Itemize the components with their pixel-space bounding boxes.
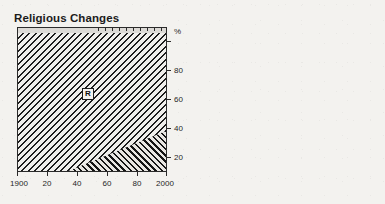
top-tick [98,28,99,31]
y-tick-left-3 [167,70,171,71]
annotation-marker-r-label: R [85,90,91,98]
x-tick-label-left-1: 20 [43,179,52,188]
y-tick-left-0 [167,157,171,158]
y-tick-label-left-0: 20 [174,153,183,162]
chart-title-religious-changes: Religious Changes [14,12,119,24]
top-tick [133,28,134,31]
top-tick [154,28,155,31]
x-tick-left-1 [47,172,48,176]
x-tick-left-2 [77,172,78,176]
x-tick-label-left-2: 40 [73,179,82,188]
top-tick [126,28,127,31]
annotation-marker-r: R [82,88,94,100]
chart-panel-evangelical-changes: Evangelical Changes 1950 60 70 80 90 200… [193,0,385,204]
y-tick-left-1 [167,128,171,129]
top-tick [112,28,113,31]
plot-area-religious-changes: R [17,27,167,172]
x-tick-left-5 [166,172,167,176]
chart-panel-religious-changes: Religious Changes R 1900 20 40 [0,0,193,204]
figure-canvas: Religious Changes R 1900 20 40 [0,0,385,204]
top-tick [119,28,120,31]
y-tick-label-left-3: 80 [174,66,183,75]
x-tick-left-3 [107,172,108,176]
y-axis-unit-left: % [174,27,181,36]
x-tick-left-0 [17,172,18,176]
y-tick-label-left-1: 40 [174,124,183,133]
x-tick-left-4 [137,172,138,176]
x-tick-label-left-3: 60 [103,179,112,188]
y-tick-left-2 [167,99,171,100]
x-tick-label-left-5: 2000 [156,179,174,188]
top-tick [161,28,162,31]
top-tick [147,28,148,31]
x-tick-label-left-0: 1900 [10,179,28,188]
top-tick [140,28,141,31]
top-tick [105,28,106,31]
y-tick-left-4 [167,41,171,42]
x-tick-label-left-4: 80 [133,179,142,188]
y-tick-label-left-2: 60 [174,95,183,104]
